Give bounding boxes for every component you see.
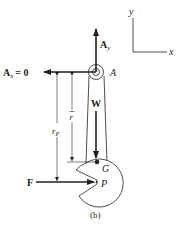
- ay-label: Ay: [100, 39, 111, 52]
- p-label: P: [100, 178, 107, 189]
- r-bar-label: r: [70, 112, 74, 122]
- g-label: G: [102, 163, 109, 174]
- ax-label: Ax= 0: [3, 67, 29, 80]
- figure-caption: (b): [90, 210, 101, 220]
- y-axis-label: y: [128, 6, 134, 17]
- r-p-label: rP: [52, 126, 60, 137]
- g-dot: [95, 160, 100, 165]
- force-weight: W: [91, 98, 101, 158]
- weight-label: W: [91, 98, 101, 109]
- f-label: F: [27, 177, 33, 188]
- pivot-label: A: [109, 67, 117, 78]
- dimension-r-bar: r: [67, 76, 97, 162]
- force-ax: Ax= 0: [3, 67, 96, 80]
- coordinate-axes: y x: [128, 6, 174, 57]
- free-body-diagram: y x A Ay Ax= 0 rP r W: [0, 0, 180, 230]
- dimension-r-p: rP: [52, 76, 60, 181]
- x-axis-label: x: [168, 46, 174, 57]
- p-dot: [96, 181, 98, 183]
- pendulum-bob: [76, 159, 123, 207]
